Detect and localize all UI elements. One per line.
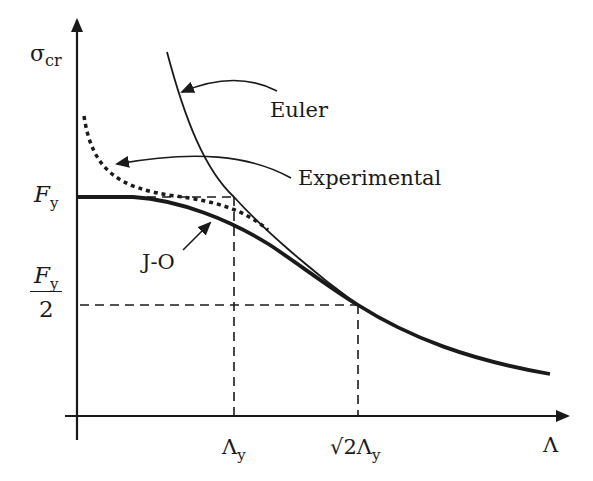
experimental-label: Experimental <box>298 168 441 189</box>
cr-subscript: cr <box>45 51 62 70</box>
fy-half-subscript: y <box>50 275 58 293</box>
fy-letter: F <box>34 181 50 207</box>
fy-half-numerator: F <box>34 262 50 288</box>
lambda-y-tick-label: Λy <box>222 437 246 458</box>
buckling-diagram: σcr Λ Fy Fy 2 Λy √2Λy Euler Experimental… <box>0 0 593 481</box>
reference-lines <box>80 197 358 416</box>
sigma-symbol: σ <box>30 41 45 66</box>
lambda-symbol: Λ <box>543 433 558 457</box>
jo-label: J-O <box>142 252 175 273</box>
fy-subscript: y <box>50 194 58 212</box>
euler-label: Euler <box>270 100 328 121</box>
euler-callout-arrow <box>182 81 277 92</box>
jo-callout-arrow <box>183 223 210 250</box>
sqrt2-lambda-y-tick-label: √2Λy <box>330 437 380 458</box>
y-axis-label: σcr <box>30 43 62 65</box>
fy-tick-label: Fy <box>34 183 58 206</box>
sqrt2-lambda-symbol: √2Λ <box>330 435 372 459</box>
experimental-callout-arrow <box>117 156 291 178</box>
x-axis-label: Λ <box>543 435 558 456</box>
sqrt2-lambda-y-subscript: y <box>372 446 380 464</box>
jo-curve <box>77 197 550 374</box>
diagram-canvas <box>0 0 593 481</box>
lambda-y-subscript: y <box>237 446 245 464</box>
fy-half-denominator: 2 <box>30 292 62 321</box>
experimental-curve <box>84 116 268 230</box>
lambda-y-symbol: Λ <box>222 435 237 459</box>
fy-half-tick-label: Fy 2 <box>30 264 62 321</box>
